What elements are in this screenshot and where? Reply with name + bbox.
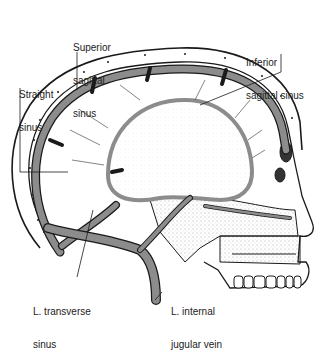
- label-line: sinus: [73, 108, 111, 119]
- brain-region: [108, 100, 252, 200]
- label-line: jugular vein: [171, 339, 222, 350]
- label-line: sagittal sinus: [246, 90, 304, 101]
- label-line: sagittal: [73, 75, 111, 86]
- label-line: L. internal: [171, 306, 222, 317]
- label-inferior-sagittal-sinus: Inferior sagittal sinus: [246, 35, 304, 112]
- label-l-transverse-sinus: L. transverse sinus: [33, 284, 91, 354]
- label-straight-sinus: Straight sinus: [19, 67, 53, 144]
- label-line: sinus: [19, 122, 53, 133]
- label-line: sinus: [33, 339, 91, 350]
- label-line: Inferior: [246, 57, 304, 68]
- label-line: L. transverse: [33, 306, 91, 317]
- label-line: Straight: [19, 89, 53, 100]
- label-line: Superior: [73, 42, 111, 53]
- label-l-internal-jugular-vein: L. internal jugular vein: [171, 284, 222, 354]
- label-superior-sagittal-sinus: Superior sagittal sinus: [73, 20, 111, 130]
